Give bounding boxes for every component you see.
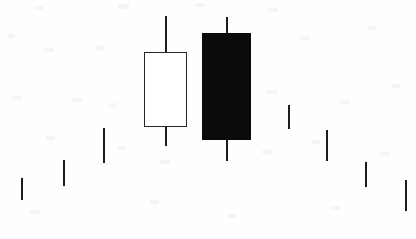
upper-wick-5: [226, 17, 228, 37]
price-mark-1: [21, 178, 23, 200]
lower-wick-4: [165, 123, 167, 146]
candle-session-6: [0, 0, 416, 239]
candle-session-2: [0, 0, 416, 239]
candlestick-chart: [0, 0, 416, 239]
candle-session-3: [0, 0, 416, 239]
candle-session-4-bullish: [0, 0, 416, 239]
candle-session-5-bearish: [0, 0, 416, 239]
price-mark-9: [405, 180, 407, 211]
candle-session-1: [0, 0, 416, 239]
lower-wick-5: [226, 136, 228, 161]
candle-body-bullish: [144, 52, 187, 127]
price-mark-3: [103, 128, 105, 163]
candle-session-7: [0, 0, 416, 239]
price-mark-7: [326, 130, 328, 161]
paper-texture: [0, 0, 416, 239]
price-mark-6: [288, 105, 290, 129]
candle-session-8: [0, 0, 416, 239]
candle-body-bearish: [202, 33, 251, 140]
candle-session-9: [0, 0, 416, 239]
price-mark-2: [63, 160, 65, 186]
upper-wick-4: [165, 16, 167, 56]
price-mark-8: [365, 162, 367, 187]
